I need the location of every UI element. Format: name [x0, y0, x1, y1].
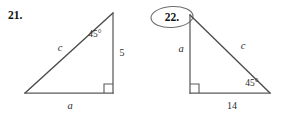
problem-21-angle-label: 45° [88, 29, 102, 39]
problem-22-hypotenuse-label: c [241, 40, 246, 51]
problem-21-hypotenuse-side [25, 13, 113, 93]
problem-21-vertical-leg-label: 5 [120, 47, 125, 58]
problem-22-horizontal-leg-label: 14 [227, 100, 237, 111]
problem-22-right-angle-icon [190, 84, 199, 93]
problem-21-group: 21. 45° c 5 a [8, 9, 125, 111]
problem-21-number: 21. [8, 9, 23, 21]
problem-22-vertical-leg-label: a [178, 43, 183, 54]
figure-sheet: 21. 45° c 5 a 22. [0, 0, 293, 120]
problem-21-right-angle-icon [104, 84, 113, 93]
geometry-figures-canvas: 21. 45° c 5 a 22. [0, 0, 293, 120]
problem-22-number: 22. [165, 11, 180, 23]
problem-22-angle-label: 45° [245, 78, 259, 88]
problem-22-group: 22. a c 45° 14 [150, 5, 270, 111]
problem-21-hypotenuse-label: c [58, 42, 63, 53]
problem-21-horizontal-leg-label: a [67, 100, 72, 111]
